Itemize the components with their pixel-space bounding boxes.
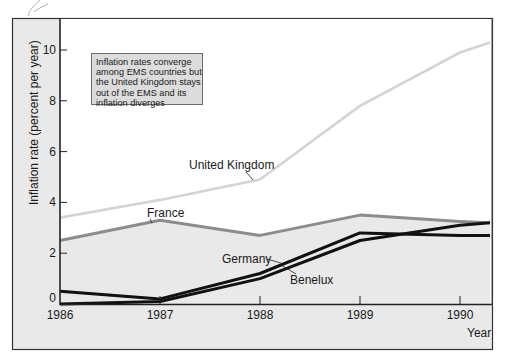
series-label-france: France	[147, 206, 185, 220]
x-tick-label: 1989	[347, 308, 374, 322]
y-tick-label: 2	[49, 246, 56, 260]
y-tick-label: 8	[49, 94, 56, 108]
annotation-line: inflation diverges	[96, 98, 202, 108]
annotation-line: the United Kingdom stays	[96, 77, 202, 87]
series-label-united-kingdom: United Kingdom	[189, 158, 274, 172]
annotation-line: out of the EMS and its	[96, 88, 202, 98]
y-tick-label: 4	[49, 195, 56, 209]
x-axis-title: Year	[467, 326, 491, 340]
annotation-line: Inflation rates converge	[96, 57, 202, 67]
series-label-benelux: Benelux	[290, 273, 333, 287]
annotation-line: among EMS countries but	[96, 67, 202, 77]
y-tick-label: 0	[49, 291, 56, 305]
series-label-germany: Germany	[222, 252, 271, 266]
y-axis-title: Inflation rate (percent per year)	[27, 40, 41, 205]
inflation-chart: 0246810 19861987198819891990 Inflation r…	[0, 0, 506, 364]
annotation-box: Inflation rates converge among EMS count…	[91, 53, 203, 105]
x-tick-label: 1987	[147, 308, 174, 322]
y-tick-label: 10	[43, 43, 57, 57]
x-tick-label: 1988	[247, 308, 274, 322]
scribble-mark	[28, 0, 48, 16]
x-tick-label: 1986	[47, 308, 74, 322]
x-tick-label: 1990	[447, 308, 474, 322]
y-tick-label: 6	[49, 145, 56, 159]
